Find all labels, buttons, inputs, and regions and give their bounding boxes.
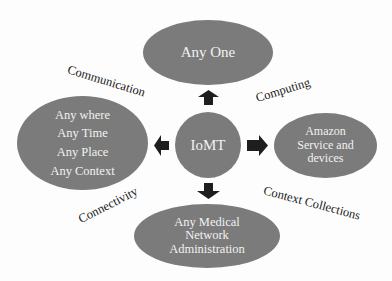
node-medical-network-admin: Any Medical Network Administration bbox=[134, 204, 280, 268]
node-left-line-4: Any Context bbox=[50, 162, 114, 181]
node-top-line-1: Any One bbox=[181, 44, 236, 61]
label-computing: Computing bbox=[254, 75, 312, 106]
label-context-collections: Context Collections bbox=[262, 183, 362, 223]
node-right-line-2: Service and bbox=[297, 139, 353, 152]
node-left-line-2: Any Time bbox=[57, 124, 107, 143]
node-left-line-3: Any Place bbox=[57, 143, 109, 162]
arrow-down-icon bbox=[197, 183, 220, 199]
arrow-right-icon bbox=[247, 135, 268, 156]
iomt-diagram: Any One Any where Any Time Any Place Any… bbox=[0, 0, 392, 281]
node-any-one: Any One bbox=[143, 20, 273, 85]
label-communication: Communication bbox=[66, 63, 147, 101]
node-bottom-line-2: Network bbox=[185, 229, 229, 242]
center-label: IoMT bbox=[191, 137, 226, 154]
arrow-up-icon bbox=[198, 90, 219, 105]
node-right-line-3: devices bbox=[308, 152, 344, 165]
node-amazon-service: Amazon Service and devices bbox=[274, 113, 377, 178]
label-connectivity: Connectivity bbox=[76, 184, 140, 227]
node-center-iomt: IoMT bbox=[175, 112, 241, 178]
arrow-left-icon bbox=[154, 135, 169, 156]
node-left-line-1: Any where bbox=[55, 106, 110, 125]
node-any-where-time-place-context: Any where Any Time Any Place Any Context bbox=[17, 96, 148, 190]
node-bottom-line-3: Administration bbox=[169, 243, 245, 256]
node-right-line-1: Amazon bbox=[305, 125, 346, 138]
